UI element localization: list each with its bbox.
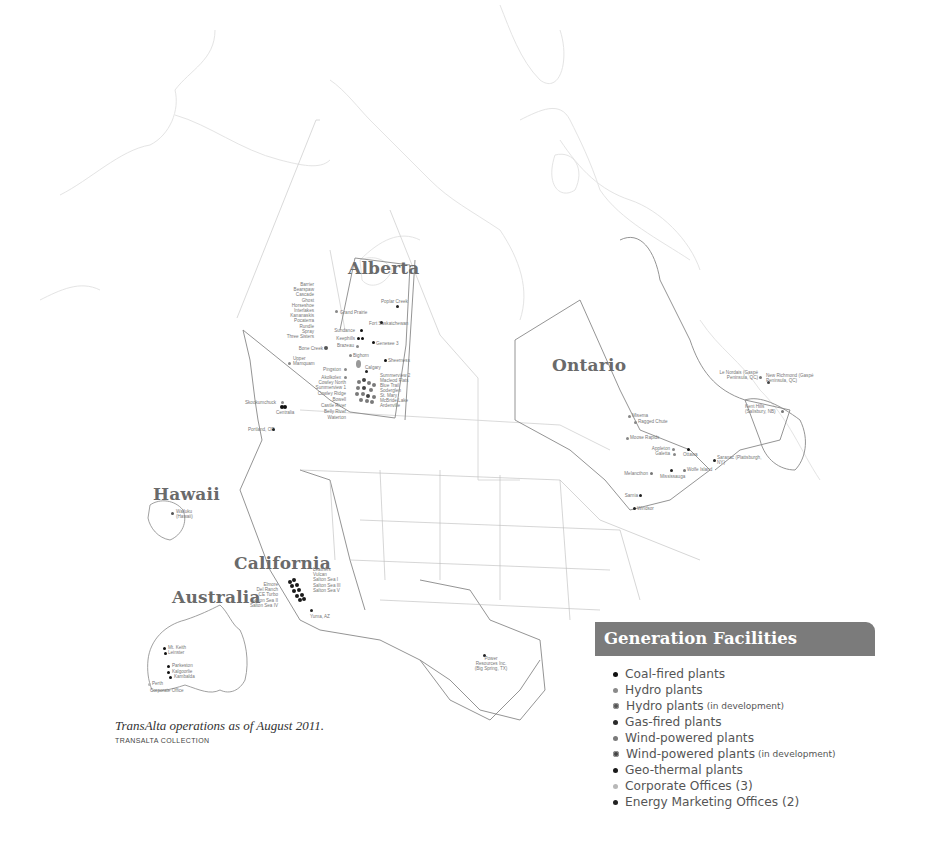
site-marker[interactable] — [634, 421, 637, 424]
site-marker[interactable] — [295, 583, 299, 587]
site-marker[interactable] — [283, 405, 287, 409]
site-marker[interactable] — [372, 383, 376, 387]
site-marker[interactable] — [310, 609, 313, 612]
legend-item: Gas-fired plants — [613, 714, 875, 730]
site-marker[interactable] — [687, 448, 690, 451]
site-marker[interactable] — [164, 652, 167, 655]
site-marker[interactable] — [167, 671, 170, 674]
site-marker[interactable] — [171, 512, 174, 515]
site-marker[interactable] — [713, 459, 716, 462]
site-marker[interactable] — [324, 346, 328, 350]
site-marker[interactable] — [357, 380, 361, 384]
site-label: Keephills — [330, 336, 355, 341]
site-marker[interactable] — [781, 410, 784, 413]
site-marker[interactable] — [302, 597, 306, 601]
site-marker[interactable] — [380, 321, 383, 324]
site-marker[interactable] — [670, 469, 673, 472]
site-marker[interactable] — [281, 401, 284, 404]
site-marker[interactable] — [361, 392, 365, 396]
site-marker[interactable] — [370, 400, 374, 404]
site-label: Saranac (Plattsburgh, NY) — [717, 455, 767, 465]
site-label: Brazeau — [330, 343, 354, 348]
site-marker[interactable] — [292, 589, 296, 593]
legend-item-label: Energy Marketing Offices (2) — [625, 794, 799, 810]
site-marker[interactable] — [344, 376, 347, 379]
site-marker[interactable] — [292, 578, 296, 582]
site-marker[interactable] — [372, 341, 375, 344]
site-label: Sundance — [330, 328, 355, 333]
site-label: Ragged Chute — [638, 419, 668, 424]
legend-item-label: Hydro plants — [626, 698, 704, 714]
legend-item: Hydro plants(in development) — [613, 698, 875, 714]
site-label: Upper Mamquam — [293, 356, 315, 366]
site-marker[interactable] — [639, 494, 642, 497]
site-marker[interactable] — [290, 584, 294, 588]
site-marker[interactable] — [355, 392, 359, 396]
site-label: Skookumchuck — [245, 400, 275, 405]
california-left-label-list: ElmoreDel RanchCE TurboSalton Sea IISalt… — [246, 582, 278, 608]
site-label: Misema — [632, 413, 648, 418]
site-marker[interactable] — [650, 472, 653, 475]
energy-marketing-office-marker[interactable] — [365, 370, 368, 373]
legend-item-label: Geo-thermal plants — [625, 762, 743, 778]
site-label: Belly River — [310, 409, 346, 414]
calgary-region-marker[interactable] — [356, 360, 361, 368]
site-marker[interactable] — [288, 362, 291, 365]
site-marker[interactable] — [369, 388, 373, 392]
site-marker[interactable] — [633, 507, 636, 510]
energy-marketing-office-marker[interactable] — [272, 428, 275, 431]
site-marker[interactable] — [362, 386, 366, 390]
site-marker[interactable] — [297, 588, 301, 592]
site-marker[interactable] — [366, 394, 370, 398]
site-marker[interactable] — [396, 305, 399, 308]
site-marker[interactable] — [335, 310, 338, 313]
corporate-office-marker[interactable] — [148, 683, 151, 686]
site-label: Kambalda — [174, 674, 195, 679]
site-marker[interactable] — [683, 469, 686, 472]
site-label: Windsor — [637, 506, 654, 511]
legend-item-note: (in development) — [758, 746, 835, 762]
site-marker[interactable] — [360, 329, 363, 332]
site-label: Wailuku (Hawaii) — [176, 509, 192, 519]
legend-bullet-icon — [613, 768, 618, 773]
site-marker[interactable] — [362, 378, 366, 382]
region-title-hawaii: Hawaii — [153, 484, 220, 504]
legend-item-label: Wind-powered plants — [625, 730, 754, 746]
site-label: Ardenville — [380, 403, 400, 408]
legend-list: Coal-fired plantsHydro plantsHydro plant… — [613, 666, 875, 810]
region-title-ontario: Ontario — [552, 355, 626, 375]
site-label: Parkeston — [172, 663, 193, 668]
site-marker[interactable] — [163, 647, 166, 650]
site-marker[interactable] — [167, 665, 170, 668]
site-marker[interactable] — [356, 345, 359, 348]
site-marker[interactable] — [626, 437, 629, 440]
site-marker[interactable] — [673, 453, 676, 456]
site-marker[interactable] — [344, 368, 347, 371]
site-marker[interactable] — [349, 354, 352, 357]
bc-hydro-plant-list: BarrierBearspawCascadeGhostHorseshoeInte… — [280, 282, 314, 339]
site-label: Corporate Office — [150, 688, 184, 693]
site-marker[interactable] — [372, 395, 376, 399]
site-marker[interactable] — [365, 399, 369, 403]
site-marker[interactable] — [357, 337, 360, 340]
site-label: Centralia — [276, 410, 294, 415]
site-label: Castle River — [310, 403, 346, 408]
site-marker[interactable] — [672, 448, 675, 451]
legend-bullet-icon — [613, 751, 619, 757]
site-marker[interactable] — [169, 676, 172, 679]
site-marker[interactable] — [367, 381, 371, 385]
site-marker[interactable] — [356, 386, 360, 390]
site-label: Yuma, AZ — [310, 614, 330, 619]
site-label: Bighorn — [353, 353, 369, 358]
california-right-label-list: LeathersVulcanSalton Sea ISalton Sea III… — [313, 567, 341, 593]
site-marker[interactable] — [361, 337, 364, 340]
site-marker[interactable] — [359, 398, 363, 402]
site-label: Mississauga — [660, 474, 685, 479]
us-state-borders — [300, 470, 700, 620]
site-marker[interactable] — [384, 359, 387, 362]
site-label: Kent Hills (Salisbury, NB) — [745, 404, 783, 414]
site-label: Cowley Ridge — [310, 391, 346, 396]
site-marker[interactable] — [628, 415, 631, 418]
site-marker[interactable] — [759, 376, 762, 379]
legend-item: Corporate Offices (3) — [613, 778, 875, 794]
